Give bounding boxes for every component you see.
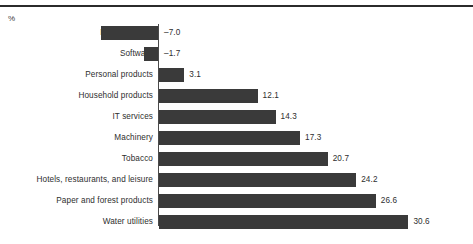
bar <box>101 26 158 40</box>
bar-value-label: 17.3 <box>305 131 321 145</box>
bar <box>159 215 408 229</box>
bar-row: Personal products3.1 <box>0 68 473 82</box>
zero-axis-line <box>158 24 159 226</box>
bar-row: Biotechnology–7.0 <box>0 26 473 40</box>
bar-row: Water utilities30.6 <box>0 215 473 229</box>
bar <box>159 194 376 208</box>
category-label: Tobacco <box>0 152 153 166</box>
bar-chart-figure: % Biotechnology–7.0Software–1.7Personal … <box>0 0 473 244</box>
bar-value-label: 3.1 <box>189 68 201 82</box>
category-label: Water utilities <box>0 215 153 229</box>
bar-row: IT services14.3 <box>0 110 473 124</box>
category-label: Machinery <box>0 131 153 145</box>
category-label: Software <box>0 47 153 61</box>
bar <box>159 173 356 187</box>
bar-row: Household products12.1 <box>0 89 473 103</box>
category-label: Paper and forest products <box>0 194 153 208</box>
bar-value-label: 12.1 <box>263 89 279 103</box>
bar-value-label: 14.3 <box>281 110 297 124</box>
bar-row: Tobacco20.7 <box>0 152 473 166</box>
plot-area: Biotechnology–7.0Software–1.7Personal pr… <box>0 0 473 244</box>
category-label: Personal products <box>0 68 153 82</box>
bar-row: Hotels, restaurants, and leisure24.2 <box>0 173 473 187</box>
bar <box>144 47 158 61</box>
bar-value-label: 20.7 <box>333 152 349 166</box>
category-label: IT services <box>0 110 153 124</box>
bar-value-label: 26.6 <box>381 194 397 208</box>
category-label: Hotels, restaurants, and leisure <box>0 173 153 187</box>
bar <box>159 68 184 82</box>
bar <box>159 152 328 166</box>
bar <box>159 110 276 124</box>
bar-row: Machinery17.3 <box>0 131 473 145</box>
bar-row: Paper and forest products26.6 <box>0 194 473 208</box>
bar-value-label: –7.0 <box>164 26 180 40</box>
category-label: Household products <box>0 89 153 103</box>
bar-value-label: 24.2 <box>361 173 377 187</box>
bar-value-label: 30.6 <box>413 215 429 229</box>
bar <box>159 89 258 103</box>
bar-row: Software–1.7 <box>0 47 473 61</box>
bar-value-label: –1.7 <box>164 47 180 61</box>
bar <box>159 131 300 145</box>
